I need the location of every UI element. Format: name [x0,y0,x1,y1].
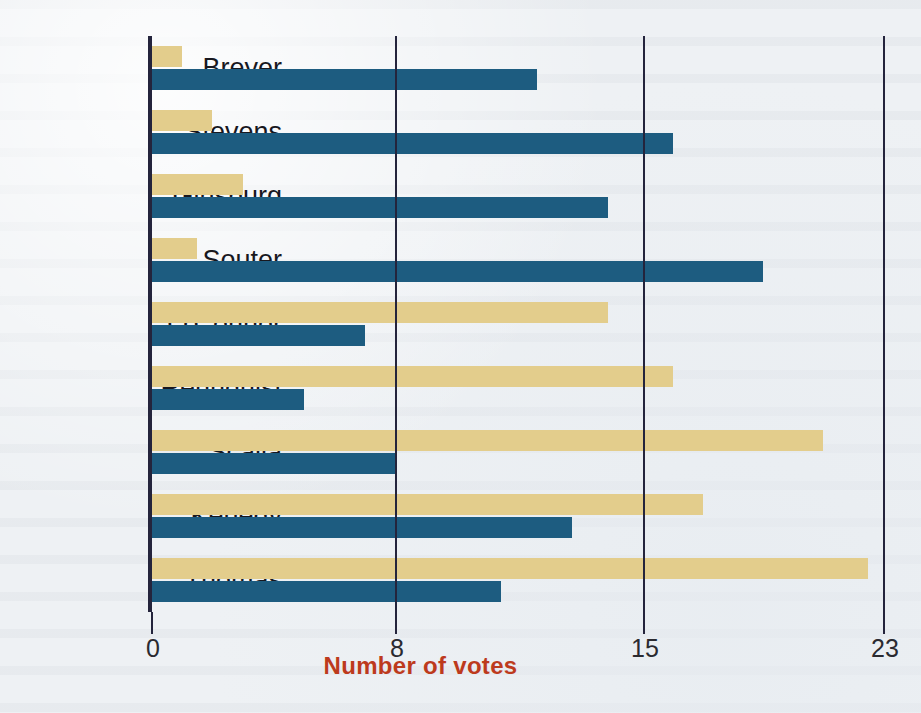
tick-mark-23 [883,612,885,634]
y-axis-line [148,36,152,612]
bar-breyer-blue [151,69,537,90]
gridline-15 [643,36,645,612]
bar-kenedy-gold [151,494,703,515]
tick-mark-8 [395,612,397,634]
bar-ginsburg-blue [151,197,608,218]
bar-kenedy-blue [151,517,572,538]
gridline-8 [395,36,397,612]
bar-stevens-gold [151,110,212,131]
tick-mark-15 [643,612,645,634]
bar-rehnquist-gold [151,366,673,387]
bar-ginsburg-gold [151,174,243,195]
bar-scalia-blue [151,453,395,474]
x-axis-title: Number of votes [0,652,921,680]
gridline-23 [883,36,885,612]
bar-souter-gold [151,238,197,259]
bar-souter-blue [151,261,763,282]
bar-thomas-blue [151,581,501,602]
x-axis-title-text: Number of votes [324,652,518,679]
tick-mark-0 [151,612,153,634]
bar-thomas-gold [151,558,868,579]
bar-oconnor-gold [151,302,608,323]
bar-oconnor-blue [151,325,365,346]
bar-chart: BreyerStevensGinsburgSouterO'ConnorRehnq… [0,0,921,713]
bar-stevens-blue [151,133,673,154]
plot-area: BreyerStevensGinsburgSouterO'ConnorRehnq… [151,36,911,612]
bar-rehnquist-blue [151,389,304,410]
bar-breyer-gold [151,46,182,67]
bar-scalia-gold [151,430,823,451]
